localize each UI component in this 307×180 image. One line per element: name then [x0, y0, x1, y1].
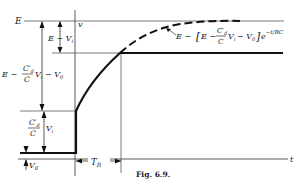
- svg-text:E −: E −: [175, 32, 191, 41]
- arrow-up-icon: [24, 159, 29, 166]
- leader-arrow-icon: [166, 28, 171, 32]
- arrow-up-icon: [40, 21, 45, 28]
- svg-text:Vi: Vi: [46, 124, 54, 134]
- arrow-up-icon: [42, 111, 47, 118]
- arrow-down-icon: [58, 47, 63, 53]
- svg-text:Vi: Vi: [228, 32, 236, 42]
- label-E: E: [14, 16, 22, 26]
- arrow-up-icon: [58, 21, 63, 27]
- arrow-down-icon: [40, 104, 45, 111]
- curve-label: E − [ E − C′d C Vi − V0 ] e −t/RC: [175, 27, 284, 46]
- label-cd-c-vi: C′d C Vi: [28, 118, 54, 138]
- label-v0: V0: [29, 161, 39, 171]
- svg-text:C′d: C′d: [29, 118, 40, 128]
- t-axis-label: t: [290, 155, 294, 164]
- waveform-diagram: v t TR E E − Vi E − C′d C Vi − V0: [0, 0, 307, 180]
- svg-text:E −: E −: [200, 32, 216, 41]
- svg-text:C′d: C′d: [23, 64, 34, 74]
- svg-text:− V0: − V0: [45, 70, 64, 80]
- svg-text:− V0: − V0: [237, 32, 256, 42]
- svg-text:E −: E −: [1, 70, 17, 79]
- svg-text:−t/RC: −t/RC: [266, 29, 284, 35]
- output-waveform: [20, 53, 283, 153]
- svg-text:C: C: [24, 75, 30, 84]
- svg-text:C′d: C′d: [217, 27, 227, 36]
- label-e-minus-cd-c-vi-v0: E − C′d C Vi − V0: [1, 64, 64, 84]
- figure-caption: Fig. 6.9.: [136, 170, 170, 179]
- svg-text:Vi: Vi: [35, 70, 43, 80]
- label-e-minus-vi: E − Vi: [47, 34, 73, 44]
- svg-text:C: C: [218, 38, 224, 46]
- svg-text:C: C: [30, 129, 36, 138]
